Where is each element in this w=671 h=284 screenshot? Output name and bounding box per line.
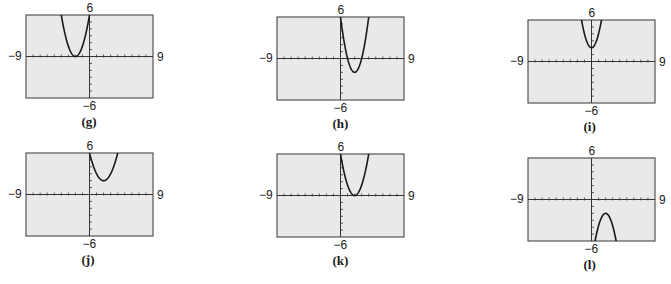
y-min-label: −6 <box>83 237 97 251</box>
graph-caption: (i) <box>584 119 596 135</box>
graph-panel-i: 6 −9 9 −6 (i) <box>528 20 671 150</box>
x-max-label: 9 <box>408 189 415 203</box>
graph-panel-j: 6 −9 9 −6 (j) <box>26 153 226 283</box>
plot-area <box>26 153 153 236</box>
plot-area <box>528 158 655 241</box>
plot-area <box>26 15 153 98</box>
x-min-label: −9 <box>510 192 524 206</box>
y-max-label: 6 <box>589 6 596 20</box>
y-min-label: −6 <box>334 238 348 252</box>
graph-panel-g: 6 −9 9 −6 (g) <box>26 15 226 145</box>
plot-area <box>277 17 404 100</box>
graph-caption: (h) <box>333 116 349 132</box>
x-max-label: 9 <box>157 188 164 202</box>
graph-caption: (j) <box>82 252 95 268</box>
x-min-label: −9 <box>8 187 22 201</box>
y-max-label: 6 <box>87 139 94 153</box>
y-max-label: 6 <box>338 140 345 154</box>
y-max-label: 6 <box>338 3 345 17</box>
y-min-label: −6 <box>334 101 348 115</box>
plot-area <box>528 20 655 103</box>
x-max-label: 9 <box>408 52 415 66</box>
graph-caption: (k) <box>333 253 349 269</box>
x-max-label: 9 <box>659 55 666 69</box>
graph-caption: (l) <box>584 257 596 273</box>
graph-panel-l: 6 −9 9 −6 (l) <box>528 158 671 284</box>
y-min-label: −6 <box>585 104 599 118</box>
x-max-label: 9 <box>659 193 666 207</box>
graph-panel-h: 6 −9 9 −6 (h) <box>277 17 477 147</box>
x-min-label: −9 <box>259 188 273 202</box>
graph-panel-k: 6 −9 9 −6 (k) <box>277 154 477 284</box>
x-max-label: 9 <box>157 50 164 64</box>
y-min-label: −6 <box>83 99 97 113</box>
graph-caption: (g) <box>82 114 97 130</box>
y-min-label: −6 <box>585 242 599 256</box>
x-min-label: −9 <box>259 51 273 65</box>
x-min-label: −9 <box>8 49 22 63</box>
y-max-label: 6 <box>589 144 596 158</box>
x-min-label: −9 <box>510 54 524 68</box>
y-max-label: 6 <box>87 1 94 15</box>
plot-area <box>277 154 404 237</box>
